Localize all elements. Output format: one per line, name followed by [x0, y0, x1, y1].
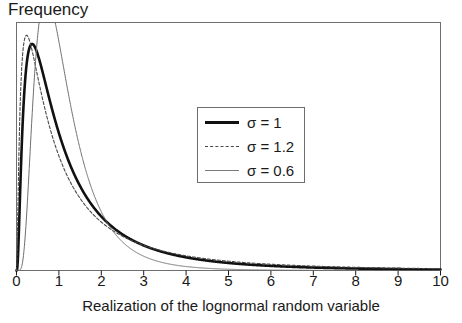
x-tick-label: 4	[171, 272, 201, 290]
x-tick-label: 5	[214, 272, 244, 290]
legend-label-sigma-1: σ = 1	[247, 114, 282, 131]
legend-line-icon-sigma-1	[205, 116, 239, 130]
lognormal-frequency-chart: Frequency 012345678910 Realization of th…	[0, 0, 462, 323]
x-tick-label: 2	[86, 272, 116, 290]
legend-label-sigma-1-2: σ = 1.2	[247, 138, 294, 155]
legend-line-icon-sigma-0-6	[205, 164, 239, 178]
legend-entry-sigma-1: σ = 1	[198, 110, 306, 135]
x-tick-label: 7	[298, 272, 328, 290]
x-tick-label: 9	[383, 272, 413, 290]
x-axis-title: Realization of the lognormal random vari…	[0, 296, 462, 315]
x-tick-label: 3	[129, 272, 159, 290]
legend-entry-sigma-1-2: σ = 1.2	[198, 134, 306, 159]
x-tick-label: 0	[2, 272, 32, 290]
x-tick-label: 8	[341, 272, 371, 290]
legend: σ = 1 σ = 1.2 σ = 0.6	[197, 107, 305, 183]
x-tick-label: 6	[256, 272, 286, 290]
legend-entry-sigma-0-6: σ = 0.6	[198, 158, 306, 183]
x-tick-label: 10	[426, 272, 456, 290]
x-tick-label: 1	[44, 272, 74, 290]
legend-label-sigma-0-6: σ = 0.6	[247, 162, 294, 179]
legend-line-icon-sigma-1-2	[205, 140, 239, 154]
